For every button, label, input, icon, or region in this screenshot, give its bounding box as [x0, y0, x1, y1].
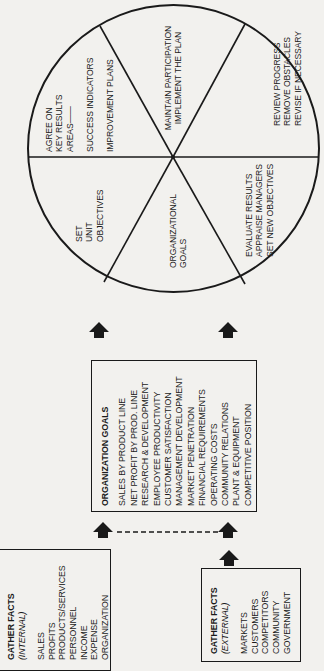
- segment-text: KEY RESULTS: [54, 95, 64, 152]
- goal-item: PLANT & EQUIPMENT: [231, 376, 242, 506]
- segment-text: IMPLEMENT THE PLAN: [173, 18, 183, 138]
- internal-subtitle: (INTERNAL): [17, 566, 28, 660]
- segment-text: REMOVE OBSTACLES: [282, 31, 292, 126]
- segment-improvement-plans: IMPROVEMENT PLANS: [105, 59, 115, 152]
- internal-item: PERSONNEL: [68, 566, 79, 660]
- gather-facts-external-content: GATHER FACTS (EXTERNAL) MARKETS CUSTOMER…: [209, 587, 292, 654]
- internal-title: GATHER FACTS: [6, 566, 17, 660]
- segment-text: APPRAISE MANAGERS: [254, 164, 264, 257]
- internal-item: PROFITS: [47, 566, 58, 660]
- goal-item: OPERATING COSTS: [209, 376, 220, 506]
- internal-item: SALES: [36, 566, 47, 660]
- spoke-lower-left: [104, 157, 173, 282]
- segment-evaluate-results: EVALUATE RESULTS APPRAISE MANAGERS SET N…: [244, 164, 275, 257]
- segment-review-progress: REVIEW PROGRESS REMOVE OBSTACLES REVISE …: [272, 31, 303, 126]
- internal-item: INCOME: [79, 566, 90, 660]
- segment-text: GOALS: [178, 194, 188, 268]
- goal-item: MARKET PENETRATION: [186, 376, 197, 506]
- internal-item: EXPENSE: [89, 566, 100, 660]
- external-item: COMMUNITY: [271, 587, 282, 654]
- organization-goals-content: ORGANIZATION GOALS SALES BY PRODUCT LINE…: [100, 376, 254, 506]
- segment-text: SET: [74, 190, 84, 243]
- segment-text: EVALUATE RESULTS: [244, 164, 254, 257]
- arrow-up-icon: [89, 322, 109, 338]
- segment-text: REVISE IF NECESSARY: [293, 31, 303, 126]
- goal-item: RESEARCH & DEVELOPMENT: [140, 376, 151, 506]
- segment-text: AREAS——: [65, 95, 75, 152]
- external-item: COMPETITORS: [260, 587, 271, 654]
- segment-text: SET NEW OBJECTIVES: [265, 164, 275, 257]
- external-subtitle: (EXTERNAL): [220, 587, 231, 654]
- segment-agree-key-results: AGREE ON KEY RESULTS AREAS——: [44, 95, 75, 152]
- segment-text: MAINTAIN PARTICIPATION: [163, 18, 173, 138]
- goal-item: SALES BY PRODUCT LINE: [117, 376, 128, 506]
- segment-organizational-goals: ORGANIZATIONAL GOALS: [168, 194, 189, 268]
- segment-text: OBJECTIVES: [95, 190, 105, 243]
- segment-text: SUCCESS INDICATORS: [85, 58, 95, 152]
- internal-item: ORGANIZATION: [100, 566, 111, 660]
- goal-item: FINANCIAL REQUIREMENTS: [197, 376, 208, 506]
- goal-item: EMPLOYEE PRODUCTIVITY: [152, 376, 163, 506]
- goal-item: CUSTOMER SATISFACTION: [163, 376, 174, 506]
- arrow-up-icon: [93, 522, 113, 538]
- center-dot: [171, 155, 175, 159]
- external-item: GOVERNMENT: [282, 587, 293, 654]
- external-title: GATHER FACTS: [209, 587, 220, 654]
- arrow-up-icon: [218, 522, 238, 538]
- external-item: MARKETS: [239, 587, 250, 654]
- gather-facts-internal-content: GATHER FACTS (INTERNAL) SALES PROFITS PR…: [6, 566, 110, 660]
- arrow-up-icon: [219, 550, 239, 566]
- arrow-up-icon: [218, 322, 238, 338]
- goal-item: COMPETITIVE POSITION: [243, 376, 254, 506]
- internal-item: PRODUCTS/SERVICES: [57, 566, 68, 660]
- segment-text: AGREE ON: [44, 95, 54, 152]
- external-item: CUSTOMERS: [250, 587, 261, 654]
- segment-text: ORGANIZATIONAL: [168, 194, 178, 268]
- goal-item: NET PROFIT BY PROD. LINE: [129, 376, 140, 506]
- segment-maintain-participation: MAINTAIN PARTICIPATION IMPLEMENT THE PLA…: [163, 18, 184, 138]
- segment-set-unit-objectives: SET UNIT OBJECTIVES: [74, 190, 105, 243]
- segment-success-indicators: SUCCESS INDICATORS: [85, 58, 95, 152]
- organization-goals-title: ORGANIZATION GOALS: [100, 376, 111, 506]
- segment-text: REVIEW PROGRESS: [272, 31, 282, 126]
- goal-item: COMMUNITY RELATIONS: [220, 376, 231, 506]
- goal-item: MANAGEMENT DEVELOPMENT: [174, 376, 185, 506]
- segment-text: IMPROVEMENT PLANS: [105, 59, 115, 152]
- segment-text: UNIT: [84, 190, 94, 243]
